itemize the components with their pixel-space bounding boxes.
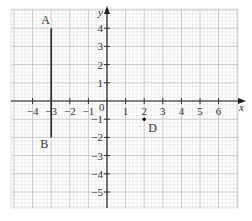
x-tick-label: −4 bbox=[27, 105, 39, 117]
point-label-d: D bbox=[148, 121, 157, 135]
y-tick-label: 1 bbox=[98, 77, 104, 89]
x-tick-label: 1 bbox=[123, 105, 129, 117]
coordinate-grid: x y 0 −4−3−2−11234564321−1−2−3−4−5 A B D bbox=[0, 0, 252, 221]
y-tick-label: −5 bbox=[91, 186, 103, 198]
x-tick-label: 5 bbox=[197, 105, 203, 117]
y-tick-label: 4 bbox=[98, 22, 104, 34]
point-label-a: A bbox=[41, 13, 50, 27]
y-tick-label: 3 bbox=[98, 40, 104, 52]
origin-label: 0 bbox=[99, 101, 105, 113]
points bbox=[142, 117, 146, 121]
y-tick-label: 2 bbox=[98, 59, 104, 71]
y-axis-label: y bbox=[97, 6, 103, 18]
x-tick-label: 6 bbox=[216, 105, 222, 117]
x-tick-label: −2 bbox=[64, 105, 76, 117]
x-tick-label: 4 bbox=[179, 105, 185, 117]
y-tick-label: −2 bbox=[91, 131, 103, 143]
point-label-b: B bbox=[40, 137, 48, 151]
y-tick-label: −4 bbox=[91, 168, 103, 180]
y-tick-label: −1 bbox=[91, 113, 103, 125]
x-axis-label: x bbox=[238, 101, 244, 113]
x-tick-label: 2 bbox=[141, 105, 147, 117]
point-d bbox=[142, 117, 146, 121]
y-tick-label: −3 bbox=[91, 150, 103, 162]
x-tick-label: 3 bbox=[160, 105, 166, 117]
